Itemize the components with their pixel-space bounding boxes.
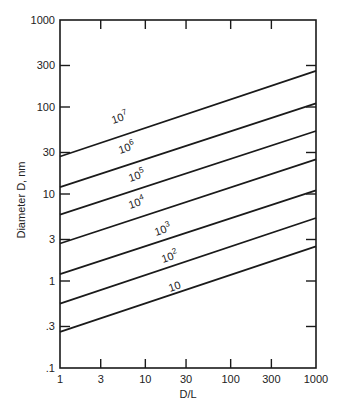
series-line bbox=[60, 103, 316, 187]
series-label: 102 bbox=[159, 246, 180, 265]
y-axis-ticks: .1.31310301003001000 bbox=[31, 14, 316, 374]
series-label: 107 bbox=[109, 107, 130, 126]
plot-border bbox=[60, 20, 316, 368]
x-tick-label: 1 bbox=[57, 373, 63, 385]
chart: 1310301003001000 .1.31310301003001000 10… bbox=[0, 0, 343, 418]
x-tick-label: 300 bbox=[262, 373, 280, 385]
y-tick-label: 1 bbox=[49, 275, 55, 287]
series-line bbox=[60, 246, 316, 332]
y-tick-label: 10 bbox=[43, 188, 55, 200]
x-tick-label: 10 bbox=[139, 373, 151, 385]
y-tick-label: .3 bbox=[46, 320, 55, 332]
series-label: 103 bbox=[152, 219, 173, 238]
y-tick-label: 100 bbox=[37, 101, 55, 113]
x-axis-title: D/L bbox=[179, 388, 196, 400]
series-label: 104 bbox=[126, 192, 147, 211]
y-tick-label: 3 bbox=[49, 233, 55, 245]
y-tick-label: 300 bbox=[37, 59, 55, 71]
x-tick-label: 100 bbox=[221, 373, 239, 385]
x-tick-label: 30 bbox=[180, 373, 192, 385]
x-tick-label: 1000 bbox=[304, 373, 328, 385]
series-label: 106 bbox=[116, 137, 137, 156]
y-tick-label: 1000 bbox=[31, 14, 55, 26]
y-axis-title: Diameter D, nm bbox=[15, 161, 27, 238]
x-tick-label: 3 bbox=[98, 373, 104, 385]
series-label: 105 bbox=[126, 165, 147, 184]
plot-frame bbox=[60, 20, 316, 368]
y-tick-label: .1 bbox=[46, 362, 55, 374]
y-tick-label: 30 bbox=[43, 146, 55, 158]
data-series bbox=[60, 71, 316, 332]
